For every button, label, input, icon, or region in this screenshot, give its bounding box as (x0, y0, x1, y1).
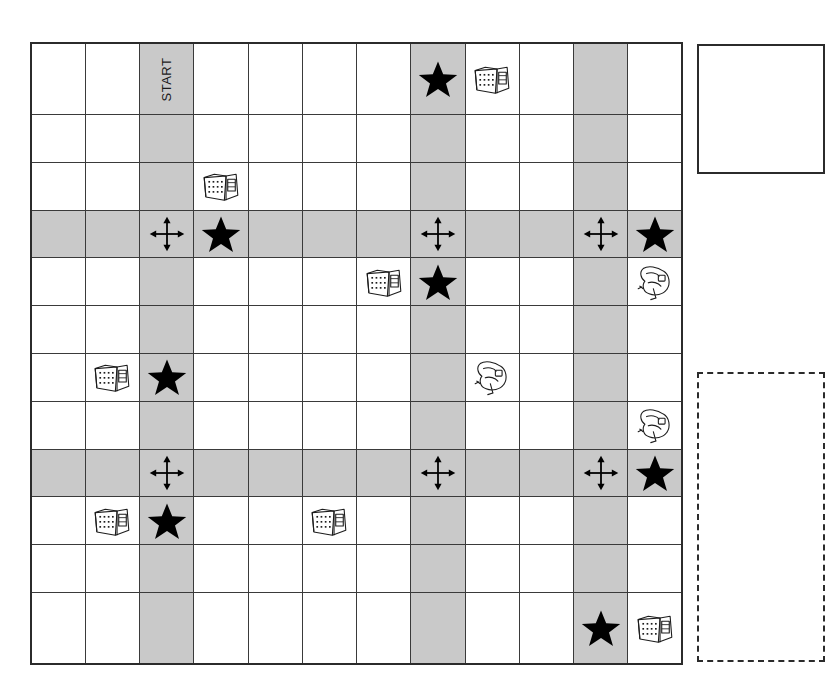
grid-cell-r11-c11[interactable] (574, 545, 628, 593)
grid-cell-r12-c7[interactable] (357, 592, 411, 664)
grid-cell-r7-c12[interactable] (628, 353, 682, 401)
grid-cell-r4-c11[interactable] (574, 210, 628, 258)
grid-cell-r8-c5[interactable] (248, 401, 302, 449)
grid-cell-r11-c1[interactable] (31, 545, 85, 593)
grid-cell-r6-c6[interactable] (302, 306, 356, 354)
grid-cell-r5-c3[interactable] (140, 258, 194, 306)
grid-cell-r12-c2[interactable] (85, 592, 139, 664)
grid-cell-r3-c7[interactable] (357, 162, 411, 210)
grid-cell-r10-c8[interactable] (411, 497, 465, 545)
grid-cell-r4-c10[interactable] (519, 210, 573, 258)
grid-cell-r3-c6[interactable] (302, 162, 356, 210)
grid-cell-r10-c3[interactable] (140, 497, 194, 545)
grid-cell-r10-c5[interactable] (248, 497, 302, 545)
grid-cell-r10-c1[interactable] (31, 497, 85, 545)
grid-cell-r9-c7[interactable] (357, 449, 411, 497)
grid-cell-r5-c11[interactable] (574, 258, 628, 306)
grid-cell-r9-c11[interactable] (574, 449, 628, 497)
grid-cell-r8-c2[interactable] (85, 401, 139, 449)
grid-cell-r4-c9[interactable] (465, 210, 519, 258)
grid-cell-r7-c3[interactable] (140, 353, 194, 401)
grid-cell-r4-c7[interactable] (357, 210, 411, 258)
grid-cell-r11-c3[interactable] (140, 545, 194, 593)
grid-cell-r10-c11[interactable] (574, 497, 628, 545)
grid-cell-r6-c11[interactable] (574, 306, 628, 354)
grid-cell-r3-c2[interactable] (85, 162, 139, 210)
grid-cell-r12-c1[interactable] (31, 592, 85, 664)
grid-cell-r12-c10[interactable] (519, 592, 573, 664)
grid-cell-r6-c8[interactable] (411, 306, 465, 354)
grid-cell-r2-c7[interactable] (357, 115, 411, 163)
grid-cell-r1-c10[interactable] (519, 43, 573, 115)
grid-cell-r6-c12[interactable] (628, 306, 682, 354)
grid-cell-r6-c2[interactable] (85, 306, 139, 354)
grid-cell-r1-c3[interactable]: START (140, 43, 194, 115)
grid-cell-r2-c5[interactable] (248, 115, 302, 163)
grid-cell-r12-c9[interactable] (465, 592, 519, 664)
grid-cell-r9-c2[interactable] (85, 449, 139, 497)
grid-cell-r7-c5[interactable] (248, 353, 302, 401)
grid-cell-r1-c11[interactable] (574, 43, 628, 115)
grid-cell-r12-c11[interactable] (574, 592, 628, 664)
grid-cell-r11-c7[interactable] (357, 545, 411, 593)
grid-cell-r5-c10[interactable] (519, 258, 573, 306)
grid-cell-r9-c9[interactable] (465, 449, 519, 497)
grid-cell-r2-c10[interactable] (519, 115, 573, 163)
grid-cell-r11-c2[interactable] (85, 545, 139, 593)
grid-cell-r9-c5[interactable] (248, 449, 302, 497)
grid-cell-r1-c7[interactable] (357, 43, 411, 115)
grid-cell-r2-c12[interactable] (628, 115, 682, 163)
grid-cell-r2-c3[interactable] (140, 115, 194, 163)
grid-cell-r12-c8[interactable] (411, 592, 465, 664)
grid-cell-r3-c10[interactable] (519, 162, 573, 210)
grid-cell-r7-c1[interactable] (31, 353, 85, 401)
grid-cell-r1-c12[interactable] (628, 43, 682, 115)
grid-cell-r11-c10[interactable] (519, 545, 573, 593)
grid-cell-r2-c11[interactable] (574, 115, 628, 163)
grid-cell-r9-c8[interactable] (411, 449, 465, 497)
grid-cell-r3-c5[interactable] (248, 162, 302, 210)
grid-cell-r7-c11[interactable] (574, 353, 628, 401)
grid-cell-r5-c12[interactable] (628, 258, 682, 306)
grid-cell-r2-c8[interactable] (411, 115, 465, 163)
grid-cell-r5-c2[interactable] (85, 258, 139, 306)
grid-cell-r11-c9[interactable] (465, 545, 519, 593)
grid-cell-r5-c7[interactable] (357, 258, 411, 306)
grid-cell-r5-c5[interactable] (248, 258, 302, 306)
grid-cell-r8-c12[interactable] (628, 401, 682, 449)
grid-cell-r9-c6[interactable] (302, 449, 356, 497)
grid-cell-r11-c6[interactable] (302, 545, 356, 593)
grid-cell-r8-c1[interactable] (31, 401, 85, 449)
grid-cell-r1-c4[interactable] (194, 43, 248, 115)
grid-cell-r4-c5[interactable] (248, 210, 302, 258)
grid-cell-r12-c6[interactable] (302, 592, 356, 664)
grid-cell-r10-c6[interactable] (302, 497, 356, 545)
grid-cell-r2-c4[interactable] (194, 115, 248, 163)
grid-cell-r8-c11[interactable] (574, 401, 628, 449)
grid-cell-r6-c4[interactable] (194, 306, 248, 354)
grid-cell-r7-c7[interactable] (357, 353, 411, 401)
grid-cell-r7-c6[interactable] (302, 353, 356, 401)
grid-cell-r12-c4[interactable] (194, 592, 248, 664)
grid-cell-r4-c3[interactable] (140, 210, 194, 258)
grid-cell-r9-c3[interactable] (140, 449, 194, 497)
grid-cell-r9-c4[interactable] (194, 449, 248, 497)
grid-cell-r11-c4[interactable] (194, 545, 248, 593)
grid-cell-r1-c6[interactable] (302, 43, 356, 115)
grid-cell-r10-c9[interactable] (465, 497, 519, 545)
grid-cell-r3-c11[interactable] (574, 162, 628, 210)
grid-cell-r12-c12[interactable] (628, 592, 682, 664)
grid-cell-r2-c9[interactable] (465, 115, 519, 163)
grid-cell-r1-c5[interactable] (248, 43, 302, 115)
grid-cell-r8-c7[interactable] (357, 401, 411, 449)
grid-cell-r5-c1[interactable] (31, 258, 85, 306)
grid-cell-r8-c4[interactable] (194, 401, 248, 449)
grid-cell-r4-c6[interactable] (302, 210, 356, 258)
grid-cell-r1-c1[interactable] (31, 43, 85, 115)
grid-cell-r1-c9[interactable] (465, 43, 519, 115)
grid-cell-r9-c1[interactable] (31, 449, 85, 497)
grid-cell-r10-c10[interactable] (519, 497, 573, 545)
grid-cell-r10-c4[interactable] (194, 497, 248, 545)
grid-cell-r1-c8[interactable] (411, 43, 465, 115)
grid-cell-r3-c4[interactable] (194, 162, 248, 210)
